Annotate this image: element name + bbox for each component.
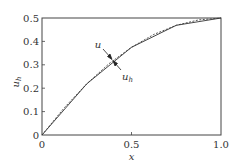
y-ticks bbox=[42, 41, 132, 135]
x-tick-0: 0 bbox=[39, 139, 45, 150]
y-tick-0.5: 0.5 bbox=[23, 13, 39, 24]
x-tick-1.0: 1.0 bbox=[213, 139, 229, 150]
x-axis-label: x bbox=[129, 151, 135, 162]
annotation-uh: uh bbox=[122, 71, 133, 84]
y-tick-0.2: 0.2 bbox=[23, 83, 39, 94]
y-tick-0.4: 0.4 bbox=[23, 36, 39, 47]
y-axis-label: uh bbox=[10, 77, 23, 88]
y-tick-0.3: 0.3 bbox=[23, 59, 39, 70]
annotation-arrows bbox=[103, 49, 121, 70]
x-tick-0.5: 0.5 bbox=[124, 139, 140, 150]
chart: 0 0.1 0.2 0.3 0.4 0.5 0 0.5 1.0 x uh u u… bbox=[0, 0, 240, 168]
annotation-u: u bbox=[95, 39, 101, 50]
y-tick-0.1: 0.1 bbox=[23, 106, 39, 117]
svg-text:uh: uh bbox=[10, 77, 23, 88]
